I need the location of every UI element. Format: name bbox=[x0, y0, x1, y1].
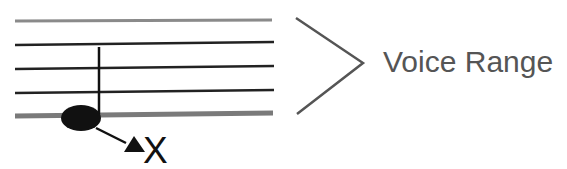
staff-line-3 bbox=[15, 66, 274, 69]
staff-line-5 bbox=[15, 113, 273, 116]
triangle-up-icon bbox=[124, 136, 145, 152]
staff-line-4 bbox=[15, 90, 274, 93]
bracket-chevron bbox=[296, 18, 363, 114]
voice-range-label: Voice Range bbox=[383, 44, 553, 80]
staff-line-2 bbox=[15, 42, 274, 45]
pointer-line bbox=[96, 128, 126, 143]
voice-range-diagram bbox=[0, 0, 567, 169]
music-staff bbox=[15, 20, 274, 116]
note bbox=[61, 47, 101, 131]
marker-x-label: X bbox=[143, 133, 168, 169]
note-head bbox=[61, 105, 101, 131]
staff-line-1 bbox=[15, 20, 272, 21]
